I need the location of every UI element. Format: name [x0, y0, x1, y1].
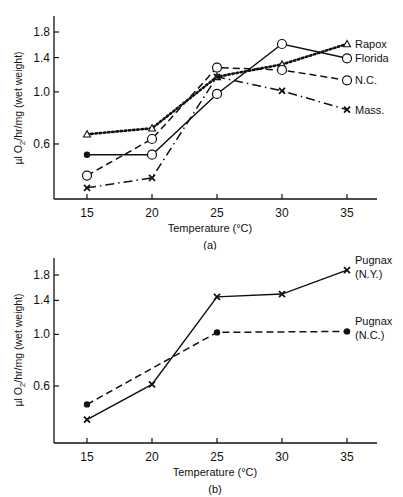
x-tick-label: 30	[275, 206, 289, 220]
x-tick-label: 25	[210, 206, 224, 220]
series-florida: Florida	[84, 40, 390, 160]
x-tick-label: 15	[80, 206, 94, 220]
circle-marker-icon	[213, 89, 222, 98]
series-line	[87, 331, 347, 404]
series-label: Pugnax	[355, 254, 393, 266]
circle-marker-icon	[278, 40, 287, 49]
dot-marker-icon	[214, 329, 220, 335]
circle-marker-icon	[83, 171, 92, 180]
x-axis-label: Temperature (°C)	[168, 222, 252, 234]
figure: 0.61.01.41.81520253035Temperature (°C)(a…	[0, 0, 403, 497]
x-tick-label: 30	[275, 450, 289, 464]
y-tick-label: 0.6	[33, 379, 50, 393]
circle-marker-icon	[343, 54, 352, 63]
series-rapox: Rapox	[84, 38, 388, 137]
x-tick-label: 20	[145, 450, 159, 464]
y-axis-label: µl O2/hr/mg (wet weight)	[12, 293, 27, 406]
x-tick-label: 35	[340, 450, 354, 464]
dot-marker-icon	[84, 151, 90, 157]
y-tick-label: 0.6	[33, 137, 50, 151]
panel-label: (a)	[203, 239, 216, 250]
circle-marker-icon	[278, 65, 287, 74]
y-tick-label: 1.0	[33, 327, 50, 341]
y-tick-label: 1.8	[33, 25, 50, 39]
circle-marker-icon	[213, 63, 222, 72]
series-label: (N.Y.)	[355, 268, 382, 280]
dot-marker-icon	[344, 328, 350, 334]
series-line	[87, 270, 347, 420]
x-tick-label: 35	[340, 206, 354, 220]
series-line	[87, 44, 347, 155]
triangle-marker-icon	[344, 41, 351, 47]
series-label: Rapox	[355, 38, 387, 50]
series-line	[87, 68, 347, 176]
chart-b: 0.61.01.41.81520253035Temperature (°C)(b…	[0, 250, 403, 497]
x-tick-label: 20	[145, 206, 159, 220]
x-marker-icon	[149, 381, 155, 387]
series-label: Florida	[355, 52, 390, 64]
x-axis-label: Temperature (°C)	[173, 466, 257, 478]
y-axis-label: µl O2/hr/mg (wet weight)	[12, 51, 27, 164]
series-label: Mass.	[355, 104, 384, 116]
series-label: N.C.	[355, 74, 377, 86]
panel-label: (b)	[208, 483, 221, 495]
series-label: Pugnax	[355, 315, 393, 327]
series-mass-: Mass.	[84, 74, 384, 191]
series-pugnax-n-y-: Pugnax(N.Y.)	[84, 254, 393, 423]
circle-marker-icon	[148, 134, 157, 143]
circle-marker-icon	[148, 150, 157, 159]
x-tick-label: 15	[80, 450, 94, 464]
series-label: (N.C.)	[355, 329, 384, 341]
dot-marker-icon	[84, 401, 90, 407]
chart-a: 0.61.01.41.81520253035Temperature (°C)(a…	[0, 0, 403, 250]
y-tick-label: 1.0	[33, 85, 50, 99]
y-tick-label: 1.4	[33, 293, 50, 307]
series-n-c-: N.C.	[83, 63, 378, 180]
series-pugnax-n-c-: Pugnax(N.C.)	[84, 315, 393, 407]
circle-marker-icon	[343, 76, 352, 85]
y-tick-label: 1.8	[33, 268, 50, 282]
x-marker-icon	[84, 417, 90, 423]
x-tick-label: 25	[210, 450, 224, 464]
y-tick-label: 1.4	[33, 51, 50, 65]
